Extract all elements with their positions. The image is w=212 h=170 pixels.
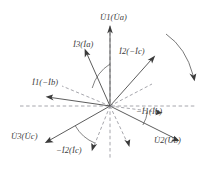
label-i1: İ1(−İb) [32,78,58,87]
phasor-neg-i2 [91,106,110,151]
phasor-neg-i3-shaft [110,106,127,142]
label-u3: U̇3(U̇c) [11,132,38,141]
label-i2: İ2(−İc) [119,47,145,56]
label-i3: İ3(İa) [73,40,93,49]
phasor-i2 [110,55,155,106]
phasor-neg-i3 [110,106,130,147]
phasor-i3-shaft [87,54,110,106]
phasor-neg-i3-arrowhead [124,139,130,147]
label-u1: U̇1(U̇a) [100,13,127,22]
arc-u3-to-negi2 [75,126,95,143]
phasor-neg-i2-shaft [94,106,110,146]
phasor-i2-shaft [110,60,151,106]
rotation-arrow-curve [166,34,193,75]
upper-right-dashed-ray [110,84,152,106]
label-neg-i2: −İ2(İc) [56,146,82,155]
label-neg-i1: −İ1(İb) [136,107,162,116]
phasor-u3 [45,106,110,143]
phasor-i1 [46,95,110,106]
phasor-diagram: U̇1(U̇a) İ3(İa) İ2(−İc) İ1(−İb) −I… [0,0,212,170]
phasor-i1-shaft [51,98,110,107]
phasor-u3-arrowhead [45,137,54,143]
phasor-u3-shaft [50,106,110,140]
phasor-neg-i2-arrowhead [91,143,97,151]
arc-i3-to-u1 [92,64,110,88]
label-u2: U̇2(U̇b) [154,136,181,145]
rotation-direction-arrow [166,34,196,81]
phasor-vectors [45,25,180,143]
